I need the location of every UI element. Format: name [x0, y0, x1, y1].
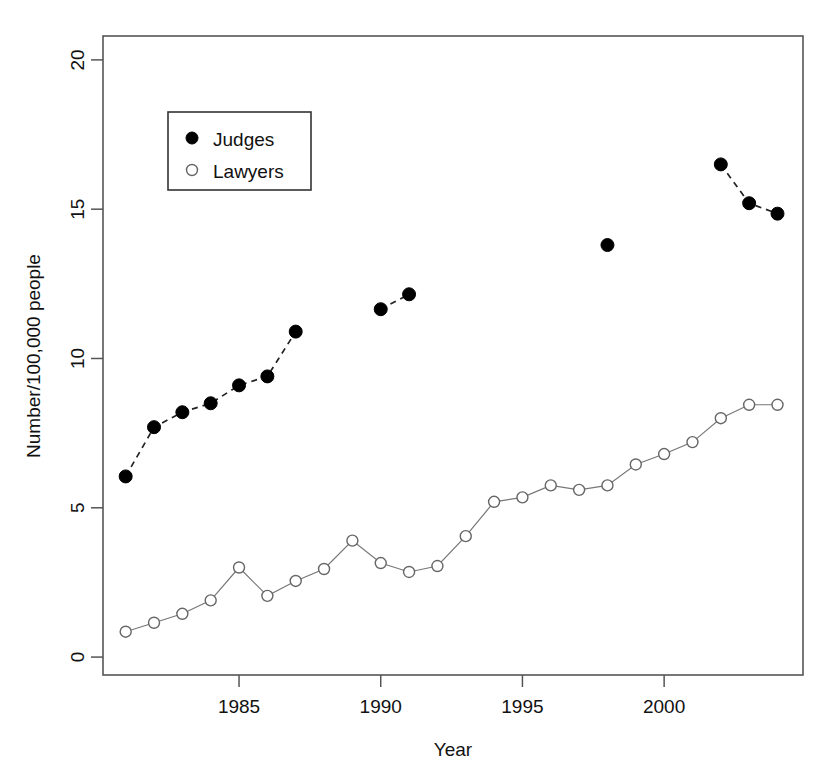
- data-point-judges: [176, 406, 189, 419]
- x-tick-label: 2000: [643, 696, 685, 717]
- plot-canvas: 05101520 1985199019952000 Number/100,000…: [0, 0, 831, 776]
- data-point-judges: [403, 288, 416, 301]
- data-point-judges: [601, 239, 614, 252]
- data-point-lawyers: [319, 563, 330, 574]
- x-tick-label: 1990: [360, 696, 402, 717]
- data-point-judges: [714, 158, 727, 171]
- x-tick-label: 1985: [218, 696, 260, 717]
- data-point-judges: [119, 470, 132, 483]
- data-point-judges: [374, 303, 387, 316]
- data-point-judges: [771, 207, 784, 220]
- data-point-judges: [261, 370, 274, 383]
- data-point-lawyers: [545, 480, 556, 491]
- series-layer: [119, 158, 784, 637]
- x-axis-tick-group: 1985199019952000: [218, 675, 685, 717]
- data-point-lawyers: [149, 617, 160, 628]
- data-point-lawyers: [715, 413, 726, 424]
- data-point-lawyers: [262, 590, 273, 601]
- data-point-lawyers: [120, 626, 131, 637]
- data-point-lawyers: [205, 595, 216, 606]
- data-point-lawyers: [517, 492, 528, 503]
- data-point-lawyers: [375, 558, 386, 569]
- legend-marker-lawyers-icon: [187, 165, 198, 176]
- data-point-lawyers: [404, 566, 415, 577]
- chart-figure: 05101520 1985199019952000 Number/100,000…: [0, 0, 831, 776]
- data-point-lawyers: [432, 561, 443, 572]
- y-tick-label: 10: [67, 348, 88, 369]
- data-point-lawyers: [772, 399, 783, 410]
- y-tick-label: 5: [67, 502, 88, 513]
- data-point-judges: [148, 421, 161, 434]
- data-point-judges: [204, 397, 217, 410]
- data-point-judges: [743, 197, 756, 210]
- y-tick-label: 15: [67, 199, 88, 220]
- data-point-lawyers: [744, 399, 755, 410]
- legend-label-lawyers: Lawyers: [213, 161, 284, 182]
- data-point-lawyers: [687, 437, 698, 448]
- data-point-lawyers: [489, 496, 500, 507]
- data-point-lawyers: [602, 480, 613, 491]
- data-point-lawyers: [460, 531, 471, 542]
- data-point-judges: [289, 325, 302, 338]
- x-axis-title: Year: [434, 739, 473, 760]
- data-point-lawyers: [290, 575, 301, 586]
- x-tick-label: 1995: [501, 696, 543, 717]
- data-point-lawyers: [177, 608, 188, 619]
- data-point-lawyers: [659, 449, 670, 460]
- series-line-lawyers: [126, 405, 778, 632]
- legend-marker-judges-icon: [186, 132, 198, 144]
- y-axis-title: Number/100,000 people: [23, 254, 44, 458]
- data-point-lawyers: [574, 484, 585, 495]
- y-tick-label: 0: [67, 652, 88, 663]
- chart-legend: Judges Lawyers: [168, 112, 311, 190]
- y-tick-label: 20: [67, 49, 88, 70]
- y-axis-tick-group: 05101520: [67, 49, 103, 662]
- legend-label-judges: Judges: [213, 129, 274, 150]
- data-point-judges: [233, 379, 246, 392]
- data-point-lawyers: [347, 535, 358, 546]
- data-point-lawyers: [630, 459, 641, 470]
- data-point-lawyers: [234, 562, 245, 573]
